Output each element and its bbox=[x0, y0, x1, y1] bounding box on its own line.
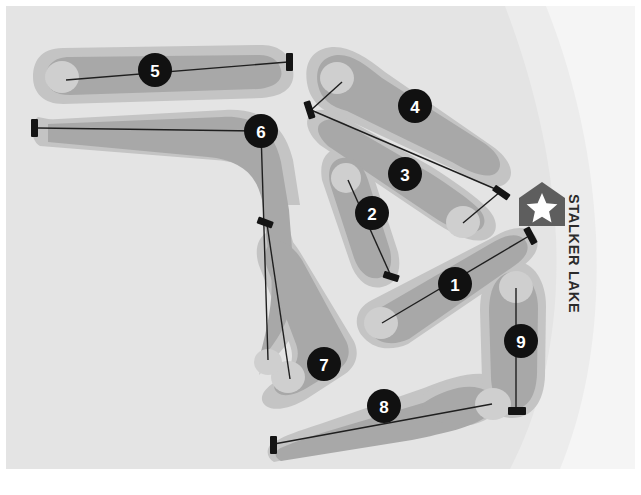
hole-4-green bbox=[320, 62, 354, 94]
hole-badge-3[interactable]: 3 bbox=[388, 157, 422, 191]
hole-badge-9[interactable]: 9 bbox=[504, 324, 538, 358]
course-diagram: 1 2 3 4 5 bbox=[0, 0, 641, 495]
hole-8-green bbox=[475, 388, 511, 420]
hole-badge-9-label: 9 bbox=[516, 333, 525, 352]
hole-badge-4-label: 4 bbox=[410, 98, 420, 117]
hole-badge-7-label: 7 bbox=[319, 356, 328, 375]
stalker-lake-label: STALKER LAKE bbox=[566, 194, 582, 313]
tee-marker-hole-5 bbox=[286, 53, 293, 71]
tee-marker-hole-9 bbox=[508, 407, 526, 415]
hole-badge-2-label: 2 bbox=[367, 205, 376, 224]
hole-badge-8[interactable]: 8 bbox=[367, 389, 401, 423]
hole-badge-6-label: 6 bbox=[256, 123, 265, 142]
hole-badge-8-label: 8 bbox=[379, 398, 388, 417]
hole-badge-5-label: 5 bbox=[150, 62, 159, 81]
hole-badge-4[interactable]: 4 bbox=[398, 89, 432, 123]
hole-5-green bbox=[45, 61, 79, 93]
hole-badge-7[interactable]: 7 bbox=[307, 347, 341, 381]
tee-marker-hole-8 bbox=[270, 436, 277, 454]
golf-course-map: 1 2 3 4 5 bbox=[0, 0, 641, 495]
hole-badge-6[interactable]: 6 bbox=[244, 114, 278, 148]
hole-3-green bbox=[446, 206, 480, 238]
hole-2-green bbox=[331, 163, 361, 193]
hole-badge-1-label: 1 bbox=[450, 276, 459, 295]
hole-badge-2[interactable]: 2 bbox=[355, 196, 389, 230]
tee-marker-hole-6 bbox=[31, 119, 38, 137]
hole-badge-1[interactable]: 1 bbox=[438, 267, 472, 301]
hole-badge-5[interactable]: 5 bbox=[138, 53, 172, 87]
hole-1-green bbox=[364, 307, 398, 339]
hole-badge-3-label: 3 bbox=[400, 166, 409, 185]
